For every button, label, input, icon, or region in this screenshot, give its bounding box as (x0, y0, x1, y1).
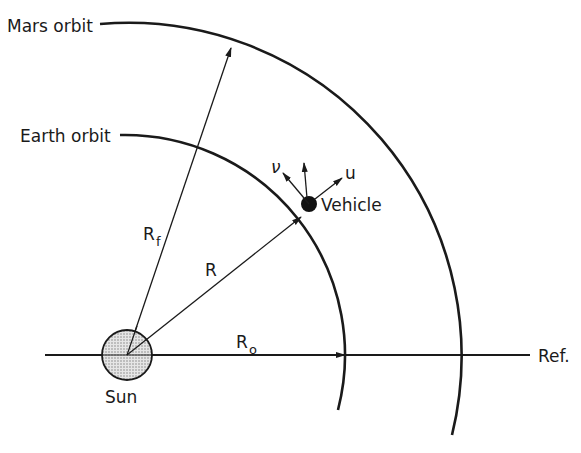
rf-vector (127, 48, 231, 355)
v-label: ν (271, 157, 281, 177)
rf-subscript: f (156, 234, 161, 249)
ro-subscript: o (249, 342, 257, 357)
ref-label: Ref. (538, 346, 570, 366)
diagram-canvas: Mars orbit Earth orbit Vehicle Sun Ref. … (0, 0, 581, 453)
orbit-transfer-diagram: Mars orbit Earth orbit Vehicle Sun Ref. … (0, 0, 581, 453)
ro-label: R (236, 332, 248, 352)
u-label: u (345, 163, 356, 183)
mars-orbit-label: Mars orbit (7, 16, 93, 36)
vehicle-label: Vehicle (321, 195, 382, 215)
velocity-arrow (304, 163, 307, 198)
earth-orbit-arc (120, 135, 345, 410)
rf-label: R (143, 224, 155, 244)
sun-label: Sun (105, 387, 137, 407)
r-label: R (205, 260, 217, 280)
earth-orbit-label: Earth orbit (20, 126, 111, 146)
